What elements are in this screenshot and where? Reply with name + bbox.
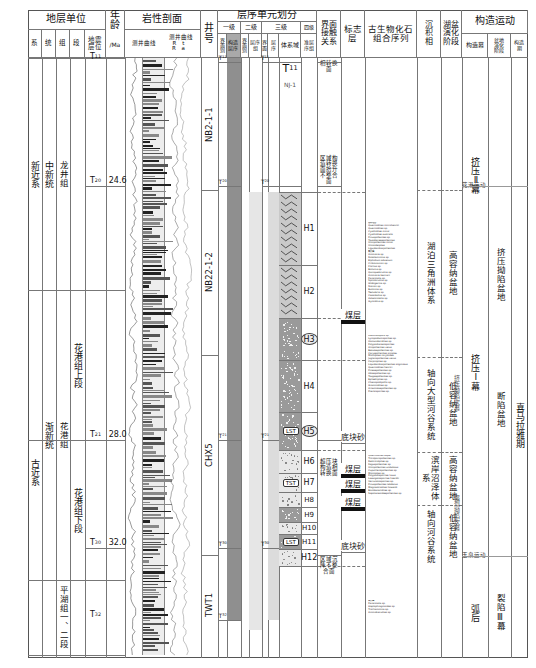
fill-dot [287, 416, 288, 417]
litho-bed [143, 281, 151, 284]
unit-divider-H8 [279, 492, 317, 493]
litho-bed [143, 150, 159, 151]
sed-facies-line-3 [417, 505, 441, 506]
litho-bed [143, 295, 168, 298]
litho-bed [143, 338, 149, 339]
strat-formation-1: 花港组 [56, 290, 70, 580]
coal-band-4 [341, 507, 365, 511]
strat-boundary-pinghu [56, 580, 125, 581]
litho-bed [143, 239, 149, 240]
fill-dot [295, 371, 296, 372]
sed-facies-2: 滨岸沼泽体系 [417, 452, 441, 505]
seismic-horizon-2: T21 [85, 429, 106, 440]
tectonic-subact-0: 挤压拗陷次幕 [450, 330, 462, 455]
litho-bed [143, 148, 160, 149]
well-name-3: TWT1 [201, 555, 218, 655]
litho-bed [143, 191, 166, 192]
well-divider-2 [201, 355, 218, 356]
interface-contact-2: 超压块构造相转换面 [317, 455, 341, 481]
litho-bed [143, 317, 151, 320]
litho-bed [143, 502, 150, 503]
litho-bed [143, 511, 171, 512]
fossil-assemblage-1: Deltoidospora sp. Lycopodiumsporites sp.… [368, 335, 415, 450]
well-divider-3 [201, 555, 218, 556]
litho-bed [143, 608, 164, 611]
unit-divider-H2 [279, 265, 317, 266]
litho-bed [143, 341, 158, 342]
fill-dot [282, 443, 283, 444]
header-strat-1: 统 [42, 30, 56, 58]
litho-bed [143, 530, 152, 532]
litho-bed [143, 504, 172, 505]
litho-bed [143, 226, 163, 227]
header-fossil: 古生物化石组合序列 [365, 10, 417, 58]
strat-series-1: 渐新统 [42, 290, 56, 580]
fill-dot [283, 453, 284, 454]
interface-line-2 [317, 440, 341, 441]
litho-bed [143, 617, 161, 619]
litho-bed [143, 206, 160, 209]
sand-marker-line-1 [341, 443, 365, 444]
litho-bed [143, 442, 165, 445]
seq-l1-line-4 [218, 620, 240, 621]
litho-bed [143, 141, 150, 143]
seq-l1-marker-2: T21 [217, 430, 229, 440]
litho-bed [143, 75, 165, 76]
fill-dot [295, 439, 296, 440]
litho-bed [143, 635, 160, 636]
litho-bed [143, 604, 154, 607]
fill-dot [287, 363, 288, 364]
fill-dot [283, 339, 284, 340]
fill-dot [298, 337, 299, 338]
litho-bed [143, 312, 171, 315]
litho-bed [143, 169, 163, 171]
litho-bed [143, 379, 150, 380]
litho-bed [143, 228, 152, 230]
litho-bed [143, 78, 151, 81]
litho-bed [143, 308, 173, 310]
systems-tract-top-marker: T11 [279, 60, 301, 76]
fill-dot [293, 409, 294, 410]
fill-dot [285, 477, 286, 478]
fill-dot [291, 324, 292, 325]
litho-bed [143, 201, 163, 202]
litho-bed [143, 364, 156, 365]
header-tect-period: 构造期 [511, 34, 528, 58]
fill-dot [292, 415, 293, 416]
litho-bed [143, 178, 165, 179]
seismic-horizon-1: T20 [85, 175, 106, 186]
litho-bed [143, 85, 150, 86]
col-divider-duan [85, 58, 86, 658]
litho-bed [143, 642, 169, 644]
seismic-horizon-0: T11 [85, 51, 106, 62]
fill-dot [285, 514, 286, 515]
marker-bed-3: 煤层 [341, 478, 365, 489]
litho-bed [143, 387, 153, 389]
unit-divider-H7 [279, 473, 317, 474]
litho-bed [143, 467, 152, 468]
litho-bed [143, 82, 170, 83]
litho-bed [143, 153, 163, 154]
header-marker-bed: 标志层 [341, 10, 365, 58]
litho-bed [143, 285, 149, 288]
fill-dot [286, 382, 287, 383]
unit-label-H5: H5 [301, 425, 318, 437]
interface-contact-3: 区域沉降不整合面 [317, 555, 341, 577]
litho-bed [143, 321, 165, 324]
fill-dot [285, 368, 286, 369]
fossil-assemblage-2: Quercoidites asper Tricolporopollenites … [368, 455, 415, 545]
litho-bed [143, 589, 156, 591]
litho-bed [143, 565, 168, 566]
litho-bed [143, 60, 156, 62]
litho-bed [143, 546, 161, 548]
litho-bed [143, 596, 158, 598]
fill-dot [283, 414, 284, 415]
litho-bed [143, 575, 159, 577]
age-tick-2 [85, 440, 125, 441]
litho-bed [143, 265, 162, 267]
litho-bed [143, 419, 152, 420]
litho-bed [143, 172, 167, 174]
seq-l1-line-3 [218, 548, 240, 549]
fill-dot [288, 556, 289, 557]
fill-dot [291, 407, 292, 408]
